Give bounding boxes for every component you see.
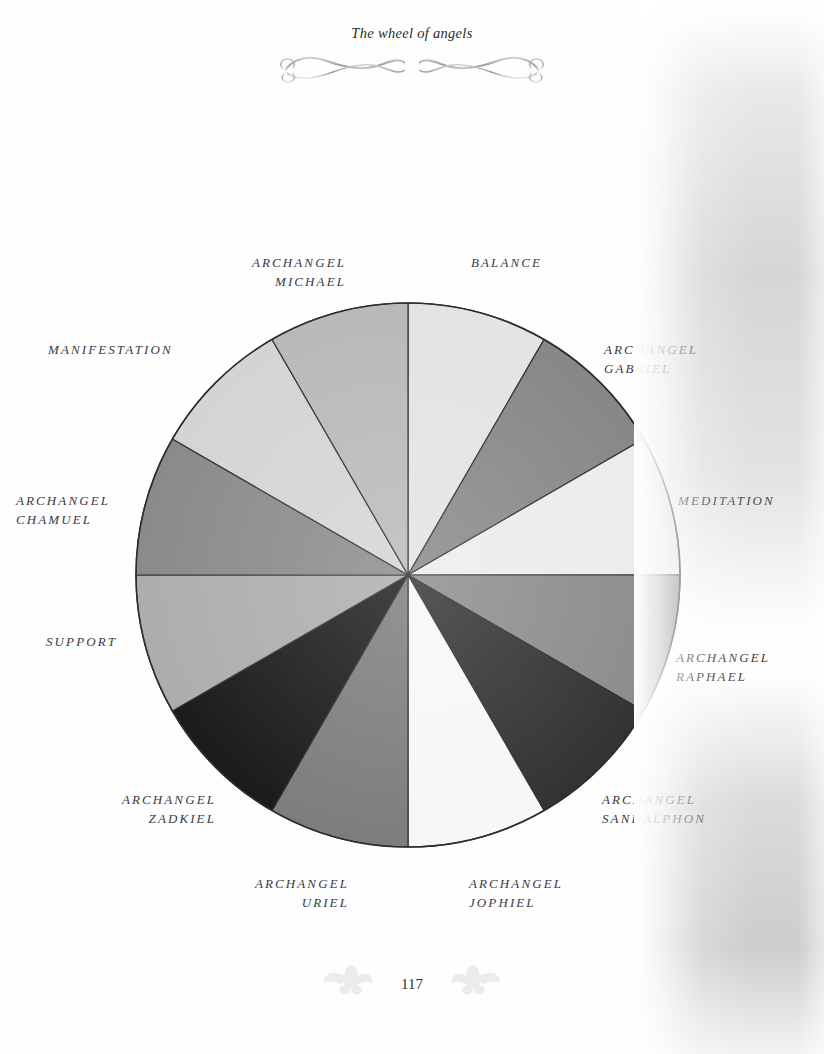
page-title: The wheel of angels — [0, 26, 824, 42]
flourish-divider-icon — [0, 49, 824, 85]
wheel-label-archangel-uriel[interactable]: ARCHANGEL URIEL — [171, 875, 349, 913]
wheel-label-balance[interactable]: BALANCE — [471, 254, 641, 273]
wheel-label-archangel-zadkiel[interactable]: ARCHANGEL ZADKIEL — [36, 791, 216, 829]
wheel-label-archangel-michael[interactable]: ARCHANGEL MICHAEL — [166, 254, 346, 292]
cherub-icon — [321, 962, 375, 1006]
wheel-label-meditation[interactable]: MEDITATION — [678, 492, 824, 511]
wheel-label-archangel-gabriel[interactable]: ARCHANGEL GABRIEL — [604, 341, 784, 379]
wheel-label-archangel-raphael[interactable]: ARCHANGEL RAPHAEL — [676, 649, 824, 687]
wheel-label-support[interactable]: SUPPORT — [46, 633, 216, 652]
page-number: 117 — [401, 976, 423, 993]
page-footer: 117 — [0, 962, 824, 1006]
page-header: The wheel of angels — [0, 26, 824, 85]
wheel-label-archangel-sandalphon[interactable]: ARCHANGEL SANDALPHON — [602, 791, 802, 829]
wheel-label-manifestation[interactable]: MANIFESTATION — [48, 341, 278, 360]
wheel-label-archangel-chamuel[interactable]: ARCHANGEL CHAMUEL — [16, 492, 196, 530]
cherub-icon — [449, 962, 503, 1006]
wheel-label-archangel-jophiel[interactable]: ARCHANGEL JOPHIEL — [469, 875, 659, 913]
